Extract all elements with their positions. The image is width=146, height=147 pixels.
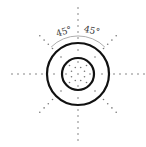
radial-dot xyxy=(23,73,25,75)
diagram-canvas: 45° 45° xyxy=(0,0,146,147)
inner-dot xyxy=(84,76,86,78)
radial-dot xyxy=(77,25,79,27)
radial-dot xyxy=(107,103,109,105)
radial-dot xyxy=(77,13,79,15)
radial-dot xyxy=(65,73,67,75)
radial-dot xyxy=(77,115,79,117)
inner-dot xyxy=(75,80,77,82)
radial-dot xyxy=(131,73,133,75)
radial-dot xyxy=(115,111,117,113)
radial-dot xyxy=(77,121,79,123)
radial-dot xyxy=(43,107,45,109)
radial-dot xyxy=(53,73,55,75)
inner-dot xyxy=(80,67,82,69)
angle-label-right: 45° xyxy=(83,24,101,37)
radial-dot xyxy=(77,37,79,39)
radial-dot xyxy=(113,73,115,75)
radial-dot xyxy=(77,7,79,9)
radial-dot xyxy=(94,90,96,92)
radial-dot xyxy=(48,44,50,46)
radial-dot xyxy=(101,73,103,75)
radial-dot xyxy=(125,73,127,75)
inner-dot xyxy=(75,67,77,69)
radial-dot xyxy=(60,56,62,58)
radial-dot xyxy=(69,65,71,67)
radial-dot xyxy=(94,56,96,58)
radial-dot xyxy=(69,82,71,84)
radial-dot xyxy=(77,109,79,111)
radial-dot xyxy=(111,39,113,41)
radial-dot xyxy=(39,111,41,113)
radial-dot xyxy=(107,44,109,46)
radial-dot xyxy=(77,49,79,51)
radial-dot xyxy=(77,31,79,33)
radial-dot xyxy=(11,73,13,75)
radial-dot xyxy=(115,35,117,37)
inner-dot xyxy=(71,76,73,78)
radial-dot xyxy=(77,127,79,129)
radial-dot xyxy=(77,85,79,87)
inner-dot xyxy=(77,73,79,75)
radial-dot xyxy=(48,103,50,105)
inner-dot xyxy=(84,71,86,73)
radial-dot xyxy=(77,139,79,141)
radial-dot xyxy=(17,73,19,75)
radial-dot xyxy=(35,73,37,75)
radial-dot xyxy=(86,82,88,84)
inner-dot-pattern xyxy=(71,67,86,82)
radial-dot xyxy=(143,73,145,75)
radial-dot xyxy=(77,97,79,99)
radial-dot xyxy=(111,107,113,109)
inner-dot xyxy=(80,80,82,82)
radial-dot xyxy=(39,35,41,37)
radial-dot xyxy=(29,73,31,75)
radial-dot xyxy=(137,73,139,75)
radial-dot xyxy=(119,73,121,75)
radial-dot xyxy=(103,99,105,101)
radial-dot xyxy=(89,73,91,75)
radial-dot xyxy=(77,133,79,135)
radial-dot xyxy=(86,65,88,67)
radial-dot xyxy=(77,19,79,21)
radial-dot xyxy=(43,39,45,41)
radial-dot xyxy=(77,61,79,63)
inner-dot xyxy=(71,71,73,73)
radial-dot xyxy=(52,48,54,50)
radial-dot xyxy=(60,90,62,92)
radial-dot xyxy=(103,48,105,50)
radial-dot xyxy=(52,99,54,101)
radial-dot xyxy=(41,73,43,75)
concentric-radial-diagram: 45° 45° xyxy=(0,0,146,147)
